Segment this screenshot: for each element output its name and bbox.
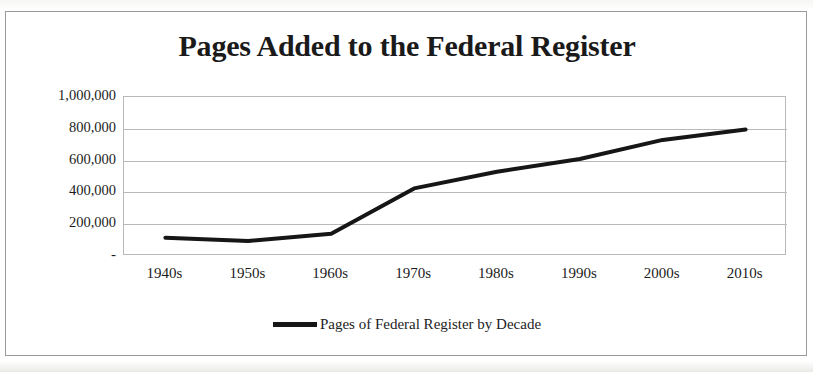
chart-frame: Pages Added to the Federal Register 1,00… [5, 11, 807, 356]
y-axis-tick-label: 1,000,000 [6, 88, 116, 102]
x-axis-category-labels: 1940s1950s1960s1970s1980s1990s2000s2010s [123, 263, 786, 287]
x-axis-tick-label: 1960s [289, 263, 372, 283]
y-axis-tick-label: 800,000 [6, 120, 116, 134]
y-axis-tick-label: 400,000 [6, 183, 116, 197]
chart-page: Pages Added to the Federal Register 1,00… [0, 0, 813, 372]
x-axis-tick-label: 1980s [455, 263, 538, 283]
y-axis-tick-label: 200,000 [6, 215, 116, 229]
y-axis-tick-labels: 1,000,000800,000600,000400,000200,000- [6, 96, 116, 255]
scan-edge-top [0, 0, 813, 10]
x-axis-tick-label: 1940s [123, 263, 206, 283]
y-axis-tick-label: - [6, 247, 116, 261]
x-axis-tick-label: 1970s [372, 263, 455, 283]
legend-label: Pages of Federal Register by Decade [320, 315, 541, 333]
legend-item: Pages of Federal Register by Decade [273, 315, 541, 333]
gridlines [124, 130, 787, 225]
chart-legend: Pages of Federal Register by Decade [6, 312, 808, 336]
plot-area [123, 96, 786, 255]
x-axis-tick-label: 2000s [620, 263, 703, 283]
legend-line-swatch-icon [273, 322, 317, 327]
chart-title: Pages Added to the Federal Register [6, 28, 808, 64]
y-axis-tick-label: 600,000 [6, 152, 116, 166]
x-axis-tick-label: 1950s [206, 263, 289, 283]
plot-svg [124, 97, 787, 256]
x-axis-tick-label: 1990s [537, 263, 620, 283]
scan-edge-bottom [0, 361, 813, 372]
x-axis-tick-label: 2010s [703, 263, 786, 283]
